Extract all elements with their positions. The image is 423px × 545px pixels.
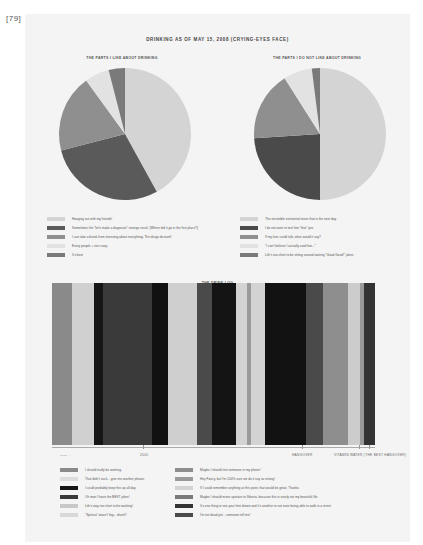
legend-label: Maybe I should move upstairs to Siberia,…: [200, 495, 318, 499]
legend-item: Hanging out with my friends!: [47, 214, 198, 223]
legend-item: Life's way too short to be working!: [60, 501, 145, 510]
axis-tick: [369, 445, 370, 449]
legend-item: "I can't believe I actually said that...…: [240, 241, 353, 250]
legend-item: Every people + not crazy.: [47, 241, 198, 250]
legend-label: I should really be working.: [85, 468, 122, 472]
legend-item: Sometimes the "let's make a diagnosis" s…: [47, 223, 198, 232]
legend-item: I should really be working.: [60, 465, 145, 474]
legend-swatch: [47, 226, 65, 230]
legend-swatch: [47, 253, 65, 257]
drink-log-segment: [94, 283, 103, 445]
legend-item: I could probably keep this up all day.: [60, 483, 145, 492]
legend-label: "I can't believe I actually said that...…: [265, 244, 316, 248]
legend-swatch: [240, 253, 258, 257]
legend-item: Hey Fancy, but I'm 100% sure we do it sa…: [175, 474, 331, 483]
legend-swatch: [47, 235, 65, 239]
legend-item: If I could remember anything at this poi…: [175, 483, 331, 492]
legend-item: Oh man I have the BEST jokes!: [60, 492, 145, 501]
legend-label: Every people + not crazy.: [72, 244, 108, 248]
pie-chart-likes: [55, 64, 195, 204]
legend-item: Maybe I should move upstairs to Siberia,…: [175, 492, 331, 501]
legend-item: "Spiritus" wasn't' big... drunk!!: [60, 510, 145, 519]
drink-log-bar: [52, 283, 375, 445]
legend-swatch: [175, 495, 193, 499]
drink-log-segment: [152, 283, 168, 445]
legend-item: That didn't suck... give me another plea…: [60, 474, 145, 483]
legend-swatch: [60, 468, 78, 472]
legend-swatch: [47, 244, 65, 248]
legend-item: It's best: [47, 250, 198, 259]
legend-swatch: [47, 217, 65, 221]
legend-swatch: [175, 513, 193, 517]
legend-label: That didn't suck... give me another plea…: [85, 477, 145, 481]
drink-log-segment: [323, 283, 348, 445]
drink-log-legend-right: Maybe I should text someone in my phone!…: [175, 465, 331, 519]
legend-swatch: [240, 244, 258, 248]
main-title: DRINKING AS OF MAY 15, 2008 (CRYING-EYES…: [25, 37, 410, 42]
page-number: [79]: [6, 14, 21, 23]
drink-log-segment: [306, 283, 323, 445]
drink-log-segment: [72, 283, 94, 445]
legend-label: It's one thing to see your feet drown an…: [200, 504, 331, 508]
legend-label: Life's way too short to be working!: [85, 504, 133, 508]
chart-page: DRINKING AS OF MAY 15, 2008 (CRYING-EYES…: [25, 14, 410, 542]
legend-swatch: [240, 217, 258, 221]
legend-item: The inevitable existential mess that is …: [240, 214, 353, 223]
axis-label: 2005: [140, 453, 148, 457]
drink-log-segment: [212, 283, 237, 445]
drink-log-segment: [52, 283, 72, 445]
legend-swatch: [60, 486, 78, 490]
drink-log-segment: [236, 283, 247, 445]
drink-log-segment: [364, 283, 375, 445]
legend-label: Hey Fancy, but I'm 100% sure we do it sa…: [200, 477, 275, 481]
legend-label: The inevitable existential mess that is …: [265, 217, 337, 221]
legend-label: Maybe I should text someone in my phone!: [200, 468, 261, 472]
axis-tick: [302, 445, 303, 449]
legend-label: It's best: [72, 253, 83, 257]
drink-log-segment: [265, 283, 306, 445]
legend-swatch: [60, 504, 78, 508]
pie-chart-dislikes: [250, 64, 390, 204]
legend-swatch: [240, 235, 258, 239]
axis-label: ——→: [60, 453, 70, 457]
legend-item: Life's too short to be sitting around wa…: [240, 250, 353, 259]
drink-log-segment: [197, 283, 212, 445]
legend-item: I do not want to text him "that" yes.: [240, 223, 353, 232]
legend-swatch: [60, 477, 78, 481]
pie-slice: [254, 134, 320, 200]
legend-label: "Spiritus" wasn't' big... drunk!!: [85, 513, 127, 517]
pie-left-title: THE PARTS I LIKE ABOUT DRINKING: [47, 56, 197, 60]
drink-log-segment: [348, 283, 360, 445]
legend-swatch: [60, 513, 78, 517]
legend-item: If my liver could talk, what would it sa…: [240, 232, 353, 241]
legend-swatch: [175, 468, 193, 472]
legend-label: Hanging out with my friends!: [72, 217, 112, 221]
legend-label: If my liver could talk, what would it sa…: [265, 235, 321, 239]
axis-tick: [143, 445, 144, 449]
legend-swatch: [175, 486, 193, 490]
axis-label: HANGOVER: [292, 453, 313, 457]
legend-item: I'm not dead yet... someone tell me!: [175, 510, 331, 519]
legend-label: I can take a break from stressing about …: [72, 235, 172, 239]
axis-tick: [359, 445, 360, 449]
legend-swatch: [240, 226, 258, 230]
drink-log-legend-left: I should really be working.That didn't s…: [60, 465, 145, 519]
timeline-axis: [52, 447, 375, 448]
pie-right-title: THE PARTS I DO NOT LIKE ABOUT DRINKING: [242, 56, 392, 60]
legend-label: Life's too short to be sitting around wa…: [265, 253, 353, 257]
drink-log-segment: [168, 283, 197, 445]
legend-item: Maybe I should text someone in my phone!: [175, 465, 331, 474]
drink-log-segment: [251, 283, 265, 445]
legend-label: Oh man I have the BEST jokes!: [85, 495, 130, 499]
legend-swatch: [60, 495, 78, 499]
legend-swatch: [175, 477, 193, 481]
legend-item: It's one thing to see your feet drown an…: [175, 501, 331, 510]
axis-label: VITAMIN WATER (THE BEST HANGOVER): [334, 453, 406, 457]
legend-label: If I could remember anything at this poi…: [200, 486, 300, 490]
legend-label: I do not want to text him "that" yes.: [265, 226, 314, 230]
pie-left-legend: Hanging out with my friends!Sometimes th…: [47, 214, 198, 259]
pie-right-legend: The inevitable existential mess that is …: [240, 214, 353, 259]
pie-slice: [320, 68, 386, 200]
legend-item: I can take a break from stressing about …: [47, 232, 198, 241]
legend-swatch: [175, 504, 193, 508]
